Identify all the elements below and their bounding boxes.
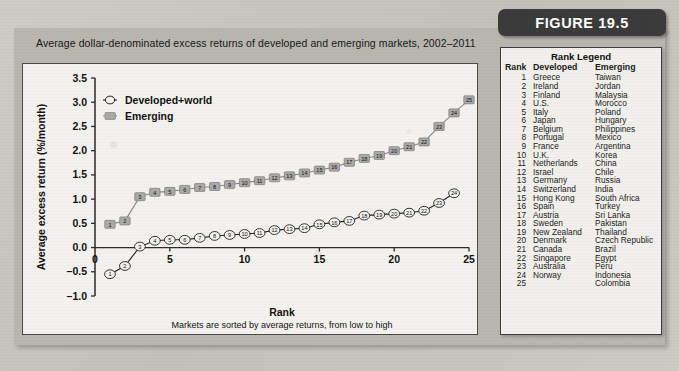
developed-point-label[interactable]: 19	[376, 212, 382, 218]
developed-point-label[interactable]: 1	[108, 271, 111, 277]
y-tick-label[interactable]: 2.0	[72, 144, 87, 156]
table-row: 13GermanyRussia	[505, 176, 657, 185]
x-axis-title[interactable]: Rank	[269, 306, 295, 318]
table-row: 12IsraelChile	[505, 168, 657, 177]
table-row: 24NorwayIndonesia	[505, 271, 657, 280]
emerging-point-label[interactable]: 25	[466, 97, 472, 103]
chart-plot-area: –1.0–0.50.00.51.01.52.02.53.03.505101520…	[23, 64, 477, 334]
emerging-point-label[interactable]: 20	[391, 148, 397, 154]
x-tick-label[interactable]: 15	[314, 253, 326, 265]
emerging-point-label[interactable]: 18	[361, 156, 367, 162]
rank-legend-head: Rank Developed Emerging	[505, 63, 657, 73]
developed-point-label[interactable]: 6	[183, 237, 186, 243]
y-tick-label[interactable]: –0.5	[67, 265, 88, 277]
y-tick-label[interactable]: 3.5	[72, 72, 87, 84]
developed-point-label[interactable]: 14	[301, 225, 307, 231]
emerging-point-label[interactable]: 16	[331, 164, 337, 170]
rank-cell: 25	[505, 279, 533, 288]
figure-number-label: FIGURE 19.5	[535, 15, 629, 31]
x-tick-label[interactable]: 10	[239, 253, 251, 265]
y-tick-label[interactable]: 2.5	[72, 120, 87, 132]
developed-point-label[interactable]: 13	[286, 226, 292, 232]
chart-series-legend[interactable]: Developed+worldEmerging	[103, 94, 212, 122]
emerging-point-label[interactable]: 13	[286, 173, 292, 179]
table-row: 15Hong KongSouth Africa	[505, 193, 657, 202]
banner-title: Average dollar-denominated excess return…	[36, 37, 476, 49]
developed-legend-marker[interactable]	[105, 96, 114, 104]
y-tick-label[interactable]: 0.5	[72, 217, 87, 229]
emerging-point-label[interactable]: 24	[451, 110, 457, 116]
developed-series-line[interactable]	[110, 193, 454, 274]
emerging-legend-marker[interactable]	[105, 113, 115, 120]
emerging-point-label[interactable]: 14	[301, 170, 307, 176]
y-tick-label[interactable]: 0.0	[72, 241, 87, 253]
x-axis-subtitle[interactable]: Markets are sorted by average returns, f…	[171, 320, 392, 330]
emerging-point-label[interactable]: 6	[183, 187, 186, 193]
figure-root: Average dollar-denominated excess return…	[0, 0, 679, 371]
table-row: 10U.K.Korea	[505, 151, 657, 160]
rank-cell: 1	[505, 73, 533, 82]
x-tick-label[interactable]: 25	[463, 253, 475, 265]
developed-point-label[interactable]: 8	[213, 233, 216, 239]
developed-point-label[interactable]: 24	[451, 190, 457, 196]
table-row: 21CanadaBrazil	[505, 245, 657, 254]
developed-point-label[interactable]: 17	[346, 218, 352, 224]
developed-point-label[interactable]: 11	[257, 230, 263, 236]
emerging-point-label[interactable]: 12	[271, 175, 277, 181]
y-tick-label[interactable]: 3.0	[72, 96, 87, 108]
y-tick-label[interactable]: 1.5	[72, 168, 87, 180]
rank-cell: 3	[505, 90, 533, 99]
x-tick-label[interactable]: 20	[388, 253, 400, 265]
emerging-cell: Colombia	[595, 279, 657, 288]
rank-legend-header-row: Rank Developed Emerging	[505, 63, 657, 73]
table-row: 9FranceArgentina	[505, 142, 657, 151]
table-row: 7BelgiumPhilippines	[505, 125, 657, 134]
developed-legend-label[interactable]: Developed+world	[125, 94, 212, 106]
emerging-point-label[interactable]: 8	[213, 184, 216, 190]
developed-point-label[interactable]: 18	[361, 213, 367, 219]
emerging-point-label[interactable]: 5	[168, 189, 171, 195]
developed-point-label[interactable]: 7	[198, 235, 201, 241]
figure-number-badge: FIGURE 19.5	[498, 9, 666, 36]
y-tick-label[interactable]: 1.0	[72, 193, 87, 205]
rank-cell: 4	[505, 99, 533, 108]
developed-point-label[interactable]: 9	[228, 232, 231, 238]
emerging-point-label[interactable]: 19	[376, 153, 382, 159]
developed-point-label[interactable]: 12	[271, 227, 277, 233]
emerging-point-label[interactable]: 10	[241, 180, 247, 186]
emerging-point-label[interactable]: 23	[436, 124, 442, 130]
developed-series-markers[interactable]: 123456789101112131415161718192021222324	[105, 189, 460, 279]
emerging-point-label[interactable]: 1	[108, 222, 111, 228]
x-tick-label[interactable]: 5	[167, 253, 173, 265]
developed-point-label[interactable]: 20	[391, 211, 397, 217]
developed-point-label[interactable]: 3	[138, 244, 141, 250]
developed-point-label[interactable]: 23	[436, 200, 442, 206]
table-row: 20DenmarkCzech Republic	[505, 236, 657, 245]
y-axis-title[interactable]: Average excess return (%/month)	[35, 104, 47, 271]
developed-point-label[interactable]: 15	[316, 222, 322, 228]
emerging-point-label[interactable]: 22	[421, 139, 427, 145]
developed-point-label[interactable]: 16	[331, 220, 337, 226]
developed-point-label[interactable]: 10	[241, 231, 247, 237]
table-row: 8PortugalMexico	[505, 133, 657, 142]
emerging-point-label[interactable]: 7	[198, 185, 201, 191]
emerging-point-label[interactable]: 9	[228, 182, 231, 188]
rank-legend-body: 1GreeceTaiwan2IrelandJordan3FinlandMalay…	[505, 73, 657, 287]
developed-point-label[interactable]: 5	[168, 237, 171, 243]
emerging-point-label[interactable]: 2	[123, 218, 126, 224]
emerging-point-label[interactable]: 3	[138, 194, 141, 200]
emerging-point-label[interactable]: 11	[257, 178, 263, 184]
emerging-point-label[interactable]: 17	[346, 159, 352, 165]
developed-point-label[interactable]: 21	[406, 210, 412, 216]
emerging-point-label[interactable]: 15	[316, 167, 322, 173]
x-tick-label[interactable]: 0	[92, 253, 98, 265]
developed-point-label[interactable]: 2	[123, 263, 126, 269]
table-row: 23AustraliaPeru	[505, 262, 657, 271]
developed-point-label[interactable]: 4	[153, 238, 156, 244]
rank-cell: 2	[505, 82, 533, 91]
emerging-legend-label[interactable]: Emerging	[125, 110, 173, 122]
y-tick-label[interactable]: –1.0	[67, 290, 88, 302]
developed-point-label[interactable]: 22	[421, 208, 427, 214]
emerging-point-label[interactable]: 21	[406, 144, 412, 150]
emerging-point-label[interactable]: 4	[153, 190, 156, 196]
